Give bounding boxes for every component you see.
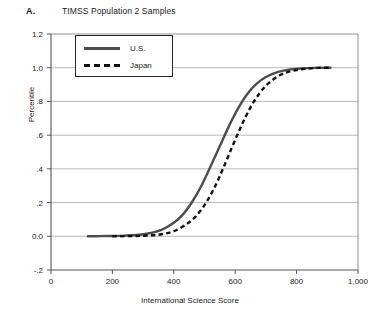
chart-legend: U.S. Japan [75,35,173,77]
y-tick-label: .2 [17,198,43,207]
y-tick-label: 1.2 [17,30,43,39]
y-tick-label: 1.0 [17,63,43,72]
legend-item-us: U.S. [84,40,146,56]
x-tick-label: 0 [31,277,71,286]
legend-label-us: U.S. [130,44,146,53]
x-tick-label: 600 [215,277,255,286]
y-tick-label: .6 [17,131,43,140]
x-tick-label: 800 [277,277,317,286]
y-tick-label: .8 [17,97,43,106]
gridlines [51,68,358,237]
y-tick-label: 0.0 [17,232,43,241]
chart-figure: A. TIMSS Population 2 Samples Percentile… [0,0,380,320]
data-series [88,68,331,237]
legend-line-solid-icon [84,43,120,53]
x-tick-label: 200 [92,277,132,286]
plot-area [0,0,380,320]
legend-label-japan: Japan [130,61,152,70]
y-tick-label: .4 [17,164,43,173]
y-tick-label: -.2 [17,266,43,275]
legend-line-dashed-icon [84,60,120,70]
legend-item-japan: Japan [84,57,152,73]
x-tick-label: 400 [154,277,194,286]
x-tick-label: 1,000 [338,277,378,286]
